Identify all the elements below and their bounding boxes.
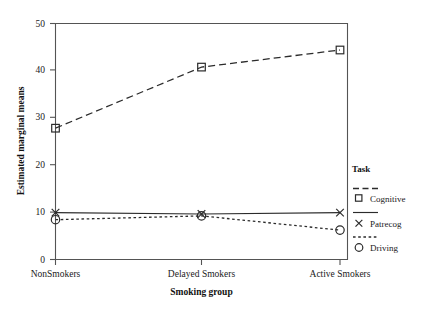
x-tick-label-nonsmokers: NonSmokers	[31, 269, 81, 279]
y-tick-label-10: 10	[36, 207, 46, 217]
legend-title: Task	[352, 164, 370, 174]
profile-plot: 0 10 20 30 40 50 NonSmokers Delayed Smok…	[0, 0, 421, 312]
y-tick-label-40: 40	[36, 65, 46, 75]
legend-item-driving[interactable]: Driving	[353, 237, 398, 253]
legend: Task Cognitive Patrecog Driving	[352, 164, 406, 253]
x-tick-label-active-smokers: Active Smokers	[310, 269, 371, 279]
series-cognitive-line	[56, 50, 341, 128]
legend-marker-driving-circle-icon	[355, 244, 363, 252]
legend-label-patrecog: Patrecog	[370, 219, 402, 229]
y-tick-label-20: 20	[36, 160, 46, 170]
legend-item-patrecog[interactable]: Patrecog	[353, 213, 402, 229]
chart-page: 0 10 20 30 40 50 NonSmokers Delayed Smok…	[0, 0, 421, 312]
x-axis-ticks: NonSmokers Delayed Smokers Active Smoker…	[31, 260, 371, 280]
y-tick-label-0: 0	[40, 255, 45, 265]
legend-item-cognitive[interactable]: Cognitive	[353, 189, 406, 204]
series-driving	[51, 212, 344, 235]
legend-label-driving: Driving	[370, 243, 398, 253]
plot-frame	[56, 23, 349, 260]
x-tick-label-delayed-smokers: Delayed Smokers	[168, 269, 236, 279]
series-cognitive	[52, 46, 344, 132]
legend-marker-patrecog-cross-icon	[356, 220, 363, 227]
legend-label-cognitive: Cognitive	[370, 194, 406, 204]
y-tick-label-30: 30	[36, 112, 46, 122]
y-axis-ticks: 0 10 20 30 40 50	[36, 19, 56, 265]
legend-marker-cognitive-square-icon	[356, 195, 362, 201]
x-axis-title: Smoking group	[170, 287, 232, 297]
y-tick-label-50: 50	[36, 19, 46, 29]
y-axis-title: Estimated marginal means	[16, 86, 26, 195]
